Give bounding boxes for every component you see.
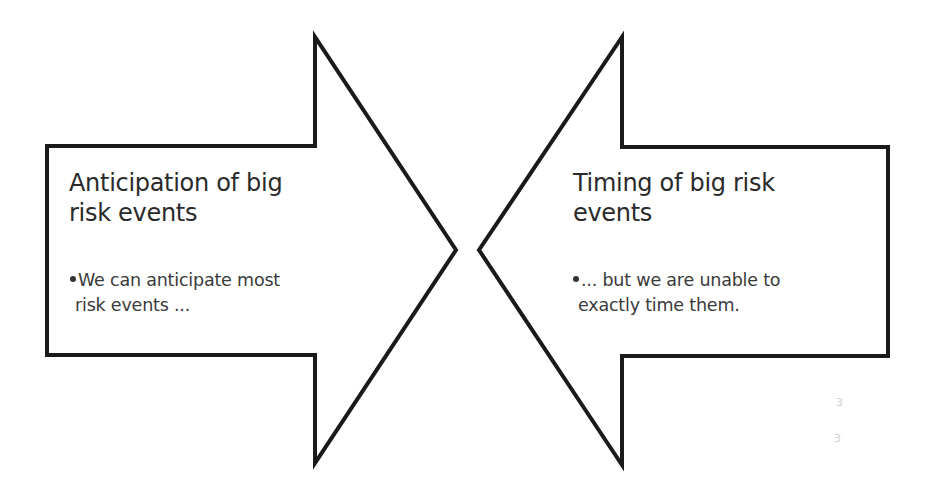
bullet-dot-icon xyxy=(573,276,579,282)
faint-mark: 3 xyxy=(834,432,841,445)
right-arrow-bullet: ... but we are unable to exactly time th… xyxy=(573,268,780,318)
arrows-diagram xyxy=(0,0,933,499)
left-title-line-2: risk events xyxy=(69,198,282,228)
right-title-line-2: events xyxy=(573,198,775,228)
left-bullet-line-2: risk events ... xyxy=(70,293,280,318)
left-title-line-1: Anticipation of big xyxy=(69,168,282,198)
bullet-dot-icon xyxy=(70,276,76,282)
right-title-line-1: Timing of big risk xyxy=(573,168,775,198)
left-arrow-bullet: We can anticipate most risk events ... xyxy=(70,268,280,318)
faint-mark: 3 xyxy=(836,396,843,409)
left-pointing-arrow-shape xyxy=(479,37,888,465)
left-bullet-line-1: We can anticipate most xyxy=(78,270,280,290)
left-arrow-title: Anticipation of big risk events xyxy=(69,168,282,228)
right-bullet-line-2: exactly time them. xyxy=(573,293,780,318)
right-arrow-title: Timing of big risk events xyxy=(573,168,775,228)
right-bullet-line-1: ... but we are unable to xyxy=(581,270,780,290)
right-pointing-arrow-shape xyxy=(47,37,456,463)
